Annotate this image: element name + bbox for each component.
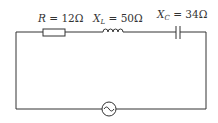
inductor-coil bbox=[103, 29, 123, 32]
capacitor-label: XC = 34Ω bbox=[156, 8, 208, 22]
circuit-diagram: R = 12Ω XL = 50Ω XC = 34Ω bbox=[0, 0, 218, 123]
resistor-label: R = 12Ω bbox=[37, 12, 84, 24]
sine-wave-icon bbox=[104, 107, 114, 111]
resistor bbox=[43, 29, 65, 36]
inductor-label: XL = 50Ω bbox=[92, 12, 143, 26]
